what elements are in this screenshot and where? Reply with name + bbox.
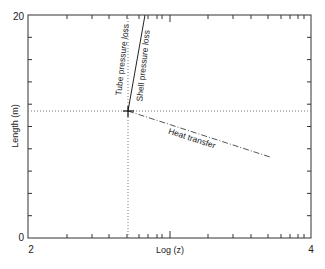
y-axis-title: Length (m) bbox=[10, 104, 20, 148]
tube-pressure-loss-label: Tube pressure loss bbox=[113, 23, 130, 96]
x-axis-title: Log (z) bbox=[156, 245, 184, 255]
y-min-label: 0 bbox=[18, 232, 24, 243]
x-min-label: 2 bbox=[28, 244, 34, 255]
heat-transfer-label: Heat transfer bbox=[167, 126, 217, 151]
x-ticks bbox=[67, 15, 304, 238]
heat-transfer-line bbox=[128, 111, 270, 157]
shell-pressure-loss-label: Shell pressure loss bbox=[134, 29, 151, 101]
chart: 20 0 2 4 Log (z) Length (m) Tube pressur… bbox=[0, 0, 325, 269]
y-max-label: 20 bbox=[13, 11, 25, 22]
operating-point-marker bbox=[123, 106, 134, 117]
x-max-label: 4 bbox=[308, 244, 314, 255]
